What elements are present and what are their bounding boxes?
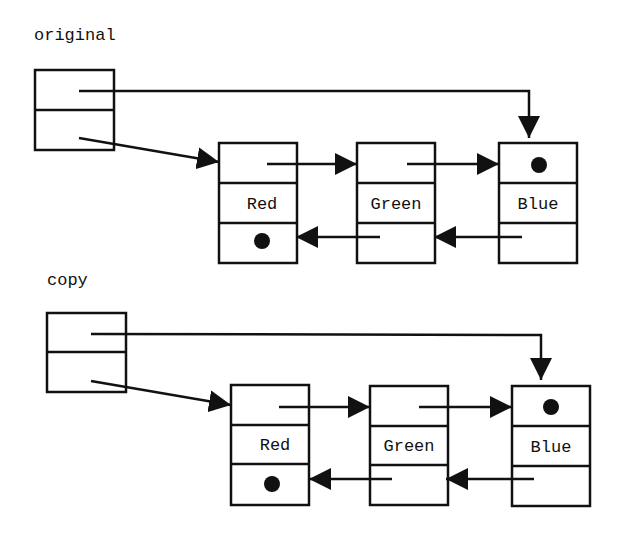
null-dot-icon bbox=[264, 476, 280, 492]
node-value: Blue bbox=[531, 438, 572, 457]
node-value: Green bbox=[383, 437, 434, 456]
null-dot-icon bbox=[254, 233, 270, 249]
node-value: Blue bbox=[518, 195, 559, 214]
original-label: original bbox=[34, 26, 116, 45]
node-value: Red bbox=[260, 436, 291, 455]
original-list: original Red Green Blue bbox=[34, 26, 577, 263]
last-pointer-arrow bbox=[91, 334, 541, 380]
node-blue: Blue bbox=[499, 143, 577, 263]
copy-header-node bbox=[47, 313, 126, 392]
null-dot-icon bbox=[543, 399, 559, 415]
copy-list: copy Red Green Blue bbox=[47, 271, 590, 506]
node-blue: Blue bbox=[512, 386, 590, 506]
node-value: Green bbox=[370, 195, 421, 214]
node-red: Red bbox=[231, 385, 309, 505]
original-header-node bbox=[35, 70, 114, 150]
node-value: Red bbox=[247, 195, 278, 214]
null-dot-icon bbox=[531, 157, 547, 173]
copy-label: copy bbox=[47, 271, 88, 290]
last-pointer-arrow bbox=[79, 91, 529, 138]
linked-list-diagram: original Red Green Blue bbox=[0, 0, 621, 534]
node-red: Red bbox=[219, 143, 297, 263]
node-green: Green bbox=[370, 386, 448, 505]
node-green: Green bbox=[357, 143, 435, 263]
